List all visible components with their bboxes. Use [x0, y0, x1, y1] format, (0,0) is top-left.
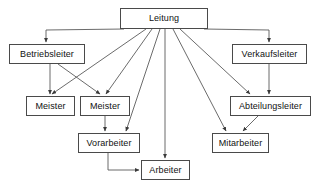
node-label-verkaufsleiter: Verkaufsleiter	[242, 50, 298, 59]
node-label-meister-1: Meister	[35, 102, 65, 111]
edge-vorarbeiter-arbeiter	[108, 153, 139, 170]
node-meister-1[interactable]: Meister	[26, 96, 75, 116]
edge-leitung-meister2	[106, 29, 152, 94]
edge-leitung-mitarbeiter	[173, 29, 226, 131]
edge-leitung-betriebsleiter	[46, 29, 124, 42]
node-label-meister-2: Meister	[90, 102, 120, 111]
node-arbeiter[interactable]: Arbeiter	[141, 160, 190, 180]
node-verkaufsleiter[interactable]: Verkaufsleiter	[232, 44, 307, 64]
edge-leitung-verkaufsleiter	[204, 29, 269, 42]
edge-betriebsleiter-meister2	[58, 64, 100, 94]
node-label-vorarbeiter: Vorarbeiter	[86, 139, 131, 148]
node-abteilungsleiter[interactable]: Abteilungsleiter	[230, 96, 311, 116]
org-chart-diagram: Leitung Betriebsleiter Verkaufsleiter Me…	[0, 0, 322, 189]
node-vorarbeiter[interactable]: Vorarbeiter	[78, 133, 140, 153]
node-label-betriebsleiter: Betriebsleiter	[20, 50, 74, 59]
node-meister-2[interactable]: Meister	[80, 96, 130, 116]
node-label-mitarbeiter: Mitarbeiter	[219, 139, 263, 148]
node-leitung[interactable]: Leitung	[120, 8, 208, 29]
node-mitarbeiter[interactable]: Mitarbeiter	[212, 133, 269, 153]
node-label-leitung: Leitung	[149, 14, 179, 23]
node-betriebsleiter[interactable]: Betriebsleiter	[9, 44, 85, 64]
edge-leitung-vorarbeiter	[126, 29, 160, 131]
edge-abteilungsleiter-mitarbeiter	[243, 116, 258, 131]
node-label-arbeiter: Arbeiter	[149, 166, 181, 175]
node-label-abteilungsleiter: Abteilungsleiter	[239, 102, 302, 111]
